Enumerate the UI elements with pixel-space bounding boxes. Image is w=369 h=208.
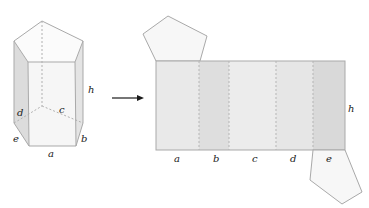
net-label-b: b <box>213 153 219 164</box>
prism-label-d: d <box>17 107 23 118</box>
net-face-b <box>199 61 229 150</box>
prism-net-diagram: h d c e b a a b c d e h <box>0 0 369 208</box>
net-label-d: d <box>290 153 296 164</box>
net-bottom-pentagon <box>310 150 362 204</box>
prism-label-a: a <box>48 148 54 159</box>
prism-label-h: h <box>88 84 94 95</box>
prism-label-e: e <box>13 133 19 144</box>
pentagonal-prism: h d c e b a <box>13 21 94 159</box>
prism-net: a b c d e h <box>143 16 362 204</box>
prism-face-front <box>28 62 76 146</box>
net-face-c <box>229 61 276 150</box>
prism-label-c: c <box>59 104 65 115</box>
net-label-c: c <box>252 153 258 164</box>
prism-label-b: b <box>81 133 87 144</box>
net-top-pentagon <box>143 16 207 61</box>
net-face-a <box>156 61 199 150</box>
net-face-e <box>313 61 345 150</box>
net-label-a: a <box>174 153 180 164</box>
prism-top-face <box>14 21 83 62</box>
net-face-d <box>276 61 313 150</box>
net-label-e: e <box>326 153 332 164</box>
arrow-icon <box>112 95 144 101</box>
net-label-h: h <box>348 103 354 114</box>
